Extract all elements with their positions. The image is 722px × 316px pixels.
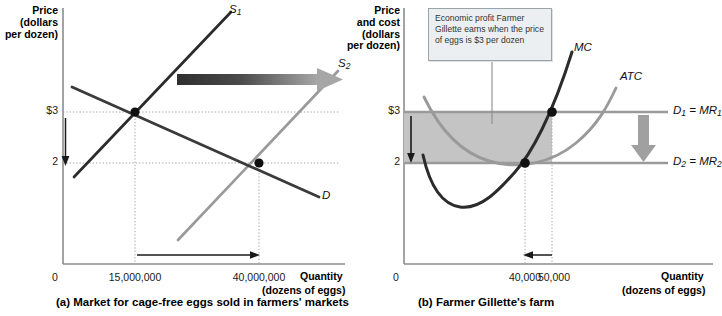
panel-b-ytick-2: 2	[368, 156, 400, 168]
equilibrium-point-1	[130, 107, 139, 116]
panel-a-xtick-40m: 40,000,000	[219, 272, 299, 284]
panel-b-x-axis-sublabel: (dozens of eggs)	[622, 285, 705, 297]
panel-a-plot	[62, 8, 345, 264]
panel-b-y-axis-label: Priceand cost(dollarsper dozen)	[340, 5, 400, 52]
panel-a-ytick-3: $3	[26, 105, 58, 117]
equilibrium-point-2	[254, 158, 263, 167]
panel-a-x-axis-sublabel: (dozens of eggs)	[262, 285, 345, 297]
panel-a-quantity-increase-arrow	[137, 251, 260, 259]
panel-a-y-axis-label: Price(dollarsper dozen)	[0, 5, 58, 40]
panel-b-origin-label: 0	[393, 272, 399, 284]
supply-curve-s1-label: S1	[229, 3, 241, 17]
panel-a-caption: (a) Market for cage-free eggs sold in fa…	[56, 296, 349, 309]
supply-curve-s1	[74, 12, 231, 177]
economic-profit-callout: Economic profit Farmer Gillette earns wh…	[428, 8, 552, 61]
panel-a-origin-label: 0	[52, 272, 58, 284]
supply-curve-s2	[178, 71, 338, 240]
supply-shift-arrow	[177, 68, 343, 91]
demand-mr1-label: D1 = MR1	[673, 104, 722, 118]
mc-curve-label: MC	[574, 41, 592, 54]
demand-curve-d-label: D	[322, 189, 330, 202]
demand-shift-down-arrow	[631, 115, 656, 162]
panel-b-x-axis-label: Quantity	[661, 271, 704, 283]
atc-curve-label: ATC	[620, 70, 642, 83]
panel-a-x-axis-label: Quantity	[300, 271, 343, 283]
panel-a-ytick-2: 2	[26, 156, 58, 168]
demand-mr2-label: D2 = MR2	[673, 155, 722, 169]
profit-max-point-low-price	[520, 158, 530, 168]
panel-b-caption: (b) Farmer Gillette's farm	[418, 296, 554, 309]
supply-curve-s2-label: S2	[338, 57, 350, 71]
panel-b-xtick-50k: 50,000	[527, 272, 581, 284]
panel-b-ytick-3: $3	[368, 105, 400, 117]
profit-max-point-high-price	[547, 107, 557, 117]
panel-b-quantity-decrease-arrow	[523, 251, 552, 259]
panel-a-xtick-15m: 15,000,000	[95, 272, 175, 284]
